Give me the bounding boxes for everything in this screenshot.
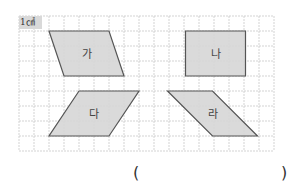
answer-blank[interactable]: ( ): [0, 163, 289, 189]
parallelogram-grid-figure: 가나다라: [0, 0, 289, 160]
close-parenthesis: ): [281, 163, 287, 182]
shape-label: 나: [211, 48, 221, 61]
shape-label: 라: [208, 108, 218, 121]
shapes-group: 가나다라: [49, 31, 258, 136]
open-parenthesis: (: [133, 163, 139, 182]
shape-label: 가: [82, 48, 92, 61]
unit-area-label: 1㎠: [19, 16, 42, 29]
shape-label: 다: [89, 108, 99, 121]
